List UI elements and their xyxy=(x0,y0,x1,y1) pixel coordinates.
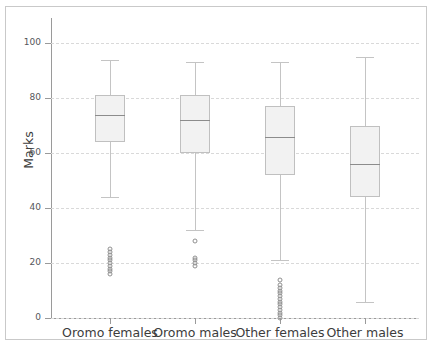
median-line xyxy=(265,137,295,138)
upper-whisker-cap xyxy=(101,60,119,61)
median-line xyxy=(350,164,380,165)
y-tick-label-60: 60 xyxy=(7,147,41,157)
lower-whisker-cap xyxy=(186,230,204,231)
upper-whisker-cap xyxy=(271,62,289,63)
upper-whisker-cap xyxy=(356,57,374,58)
lower-whisker-cap xyxy=(356,302,374,303)
box-iqr xyxy=(265,106,295,175)
upper-whisker-line xyxy=(110,60,111,96)
y-axis-line xyxy=(51,18,52,318)
upper-whisker-line xyxy=(195,62,196,95)
y-tick-label-100: 100 xyxy=(7,37,41,47)
x-tick-mark-3 xyxy=(365,318,366,324)
y-tick-label-20: 20 xyxy=(7,257,41,267)
lower-whisker-line xyxy=(280,175,281,260)
x-tick-mark-0 xyxy=(110,318,111,324)
box-iqr xyxy=(180,95,210,153)
x-tick-mark-1 xyxy=(195,318,196,324)
outlier-point xyxy=(193,263,198,268)
lower-whisker-line xyxy=(110,142,111,197)
outlier-point xyxy=(193,239,198,244)
box-iqr xyxy=(95,95,125,142)
lower-whisker-cap xyxy=(101,197,119,198)
y-tick-label-0: 0 xyxy=(7,312,41,322)
gridline-0 xyxy=(51,318,419,319)
box-iqr xyxy=(350,126,380,198)
outlier-point xyxy=(108,272,113,277)
boxplot-figure: Marks 020406080100 Oromo femalesOromo ma… xyxy=(0,0,433,346)
x-tick-label-other-females: Other females xyxy=(235,325,324,340)
upper-whisker-line xyxy=(365,57,366,126)
gridline-40 xyxy=(51,208,419,209)
y-tick-label-40: 40 xyxy=(7,202,41,212)
median-line xyxy=(95,115,125,116)
x-tick-label-oromo-males: Oromo males xyxy=(153,325,237,340)
x-tick-label-other-males: Other males xyxy=(327,325,404,340)
lower-whisker-cap xyxy=(271,260,289,261)
lower-whisker-line xyxy=(365,197,366,302)
y-tick-label-80: 80 xyxy=(7,92,41,102)
gridline-100 xyxy=(51,43,419,44)
outlier-point xyxy=(278,316,283,321)
lower-whisker-line xyxy=(195,153,196,230)
upper-whisker-line xyxy=(280,62,281,106)
outlier-point xyxy=(278,277,283,282)
upper-whisker-cap xyxy=(186,62,204,63)
median-line xyxy=(180,120,210,121)
x-tick-label-oromo-females: Oromo females xyxy=(62,325,158,340)
gridline-20 xyxy=(51,263,419,264)
